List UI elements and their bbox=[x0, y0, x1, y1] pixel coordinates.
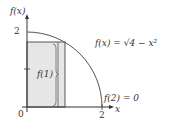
x-axis-arrow-icon bbox=[109, 105, 114, 109]
x-axis-label: x bbox=[115, 104, 120, 114]
rect-label: f(1) bbox=[37, 69, 53, 79]
x-tick-label: 2 bbox=[99, 110, 105, 120]
y-axis-arrow-icon bbox=[25, 14, 29, 19]
diagram-canvas bbox=[0, 0, 171, 124]
y-axis-label: f(x) bbox=[10, 6, 25, 16]
y-tick-label: 2 bbox=[14, 26, 20, 36]
function-label: f(x) = √4 − x² bbox=[95, 38, 157, 48]
origin-label: 0 bbox=[18, 109, 24, 119]
endpoint-label: f(2) = 0 bbox=[104, 93, 139, 103]
